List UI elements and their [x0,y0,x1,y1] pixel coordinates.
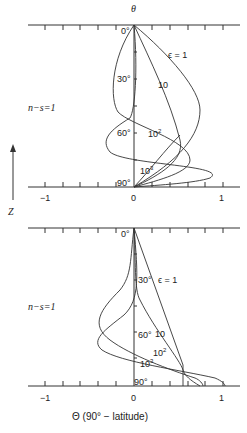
lower-panel: 0° 30° 60° 90° ϵ = 1 10 102 103 n−s=1 −1… [28,228,240,422]
z-axis-arrow: Z [8,144,16,217]
lower-deg60: 60° [138,330,152,340]
lower-curve-eps1000 [98,228,225,386]
z-label: Z [8,206,14,217]
lower-tick-0: 0 [131,393,136,403]
upper-tick-0: 0 [131,193,136,203]
upper-side-label: n−s=1 [28,102,55,113]
lower-label-eps1: ϵ = 1 [158,275,177,285]
upper-label-eps1: ϵ = 1 [168,50,187,60]
lower-label-10: 10 [155,329,165,339]
upper-label-1000: 103 [140,165,154,176]
upper-deg0: 0° [121,26,130,36]
upper-label-100: 102 [148,128,162,139]
upper-deg30: 30° [117,74,131,84]
upper-deg60: 60° [117,128,131,138]
upper-panel: 0° 30° 60° 90° ϵ = 1 10 102 103 n−s=1 −1… [28,25,240,203]
lower-tick-m1: −1 [40,393,50,403]
upper-deg90: 90° [117,178,131,188]
lower-deg0: 0° [121,229,130,239]
upper-tick-1: 1 [219,193,224,203]
upper-label-10: 10 [158,80,168,90]
upper-curve-eps1000 [106,25,212,187]
lower-side-label: n−s=1 [28,301,55,312]
lower-label-1000: 103 [140,358,154,369]
x-axis-title: Θ (90° − latitude) [72,411,148,422]
lower-deg30: 30° [138,275,152,285]
theta-title: θ [131,3,136,14]
lower-deg90: 90° [134,377,148,387]
upper-curve-eps1 [134,25,200,187]
lower-tick-1: 1 [219,393,224,403]
upper-tick-m1: −1 [40,193,50,203]
lower-label-100: 102 [153,347,167,358]
chart-figure: θ 0° 30° [0,0,247,433]
